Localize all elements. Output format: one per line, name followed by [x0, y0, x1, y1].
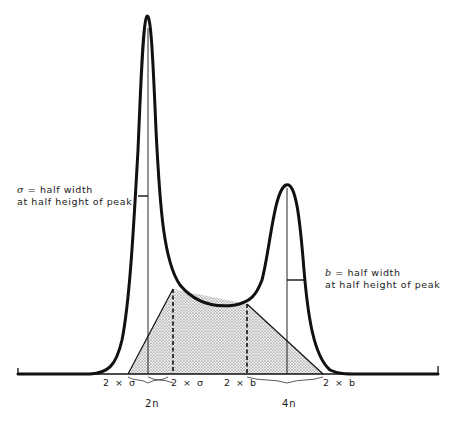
chromatogram-diagram: [0, 0, 454, 424]
label-mid-2b: 2 × b: [224, 377, 258, 388]
brace-mid-sigma: [148, 377, 173, 383]
peak2-annotation: b = half width at half height of peak: [325, 267, 440, 291]
peak1-annotation: σ = half width at half height of peak: [17, 184, 132, 208]
peak2-annotation-line2: at half height of peak: [325, 279, 440, 291]
peak2-annotation-line1: b = half width: [325, 267, 440, 279]
label-right-2b: 2 × b: [323, 377, 357, 388]
peak1-annotation-line2: at half height of peak: [17, 196, 132, 208]
b-symbol: b: [325, 267, 332, 278]
peak1-position-label: 2n: [145, 398, 160, 409]
label-left-2sigma: 2 × σ: [103, 377, 137, 388]
peak2-definition: = half width: [332, 267, 401, 278]
peak1-annotation-line1: σ = half width: [17, 184, 132, 196]
label-mid-2sigma: 2 × σ: [171, 377, 205, 388]
brace-mid-b: [247, 377, 323, 383]
peak2-position-label: 4n: [282, 398, 297, 409]
peak1-definition: = half width: [24, 184, 93, 195]
overlap-area: [128, 289, 323, 374]
